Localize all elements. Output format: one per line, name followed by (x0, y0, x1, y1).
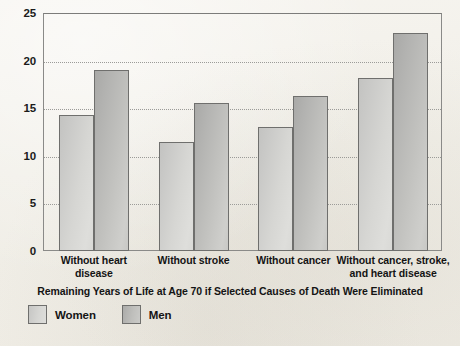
legend: WomenMen (28, 305, 172, 324)
plot-area (43, 13, 442, 251)
gridline (44, 109, 441, 110)
y-axis-tick-label: 0 (0, 245, 36, 257)
legend-item-men: Men (122, 305, 172, 324)
legend-swatch-icon (122, 305, 141, 324)
y-axis-title: Years (0, 112, 1, 141)
y-axis-tick-label: 5 (0, 197, 36, 209)
category-label-line: Without cancer, stroke, (334, 254, 452, 267)
y-axis-tick-label: 25 (0, 7, 36, 19)
bar-chart: 0510152025 Years Without heartdiseaseWit… (0, 0, 460, 346)
category-label-line: and heart disease (334, 267, 452, 280)
legend-swatch-icon (28, 305, 47, 324)
y-axis-tick-label: 15 (0, 102, 36, 114)
y-axis-tick-label: 20 (0, 55, 36, 67)
gridline (44, 157, 441, 158)
category-label-line: disease (35, 267, 153, 280)
y-axis-tick-label: 10 (0, 150, 36, 162)
legend-label: Women (55, 309, 96, 321)
x-axis-category-label: Without cancer, stroke,and heart disease (334, 254, 452, 279)
x-axis-caption: Remaining Years of Life at Age 70 if Sel… (0, 285, 460, 297)
legend-item-women: Women (28, 305, 96, 324)
gridline (44, 204, 441, 205)
legend-label: Men (149, 309, 172, 321)
gridline (44, 62, 441, 63)
